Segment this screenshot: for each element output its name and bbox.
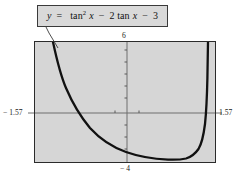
x-axis-max-label: 1.57 — [219, 109, 232, 117]
equation-term1-var: x — [89, 10, 94, 21]
equation-term2: 2 tan — [109, 10, 129, 21]
equation-term1-exponent: 2 — [83, 9, 86, 16]
equation-callout: y=tan2x−2 tanx−3 — [37, 5, 168, 27]
equation-term3: 3 — [153, 10, 158, 21]
equation-equals: = — [56, 10, 62, 21]
x-axis-min-label: − 1.57 — [3, 109, 22, 117]
equation-op2: − — [142, 10, 148, 21]
y-axis-min-label: − 4 — [120, 165, 130, 173]
equation-op1: − — [99, 10, 105, 21]
function-curve — [53, 42, 208, 160]
equation-lhs: y — [47, 10, 52, 21]
callout-pointer — [46, 27, 58, 48]
y-axis-max-label: 6 — [122, 32, 126, 40]
equation-text: y=tan2x−2 tanx−3 — [47, 11, 158, 21]
equation-term2-var: x — [133, 10, 138, 21]
equation-term1-base: tan — [70, 10, 83, 21]
graph-figure: y=tan2x−2 tanx−3 6 − 4 − 1.57 1.57 — [0, 0, 241, 178]
